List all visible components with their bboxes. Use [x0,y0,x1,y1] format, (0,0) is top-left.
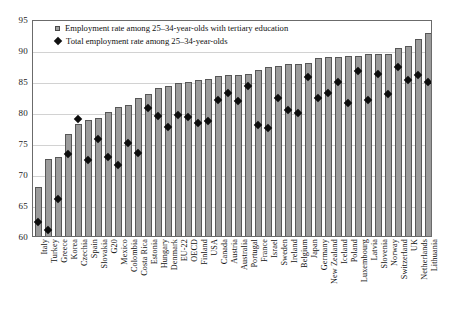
bar-group[interactable] [425,21,432,236]
bar[interactable] [185,82,192,236]
y-tick-label: 95 [19,15,28,25]
x-tick-label: Ireland [290,239,299,263]
bar-group[interactable] [235,21,242,236]
bar-group[interactable] [135,21,142,236]
bar-group[interactable] [305,21,312,236]
bar-group[interactable] [335,21,342,236]
bar-group[interactable] [125,21,132,236]
bar[interactable] [275,66,282,237]
bar-group[interactable] [115,21,122,236]
bar[interactable] [165,86,172,236]
bar-group[interactable] [65,21,72,236]
bar-group[interactable] [285,21,292,236]
x-tick-label: Costa Rica [140,239,149,276]
bar[interactable] [175,83,182,236]
bar-group[interactable] [195,21,202,236]
bar[interactable] [325,57,332,236]
bar-group[interactable] [325,21,332,236]
x-tick-label: Slovenia [380,239,389,268]
bar-group[interactable] [205,21,212,236]
bar[interactable] [115,107,122,236]
bar[interactable] [305,63,312,236]
bar-group[interactable] [175,21,182,236]
bar[interactable] [125,105,132,236]
bar[interactable] [45,159,52,236]
bar[interactable] [205,79,212,236]
y-tick-label: 85 [19,77,28,87]
bar-group[interactable] [225,21,232,236]
x-tick-label: Luxembourg [360,239,369,282]
bar[interactable] [35,187,42,236]
bar-group[interactable] [415,21,422,236]
x-tick-label: Germany [320,239,329,270]
bar-group[interactable] [265,21,272,236]
bar[interactable] [255,70,262,236]
bar[interactable] [425,33,432,236]
bar[interactable] [75,124,82,236]
bar-group[interactable] [355,21,362,236]
bar-group[interactable] [255,21,262,236]
bar[interactable] [365,54,372,236]
bar[interactable] [155,88,162,236]
bar[interactable] [345,56,352,236]
bar-group[interactable] [365,21,372,236]
bar[interactable] [415,39,422,236]
bar-group[interactable] [215,21,222,236]
bar-group[interactable] [245,21,252,236]
bar-group[interactable] [35,21,42,236]
y-tick-label: 75 [19,139,28,149]
x-tick-label: Netherlands [420,239,429,280]
x-tick-label: Poland [350,239,359,262]
bar-group[interactable] [45,21,52,236]
x-tick-label: Turkey [50,239,59,263]
bar-group[interactable] [395,21,402,236]
bar-group[interactable] [95,21,102,236]
bar-group[interactable] [385,21,392,236]
bar-group[interactable] [185,21,192,236]
bar[interactable] [295,64,302,236]
bar-group[interactable] [165,21,172,236]
legend-item-tertiary-education: Employment rate among 25–34-year-olds wi… [55,23,288,35]
bar-group[interactable] [275,21,282,236]
bar[interactable] [265,67,272,236]
bar-group[interactable] [375,21,382,236]
x-tick-label: Canada [220,239,229,264]
bar-group[interactable] [155,21,162,236]
employment-rate-bar-chart: 6065707580859095 % Employment rate among… [0,0,450,322]
legend-label: Employment rate among 25–34-year-olds wi… [65,23,288,35]
bar[interactable] [245,74,252,236]
bar[interactable] [395,48,402,236]
bar[interactable] [355,56,362,236]
bar-group[interactable] [295,21,302,236]
bar-group[interactable] [105,21,112,236]
x-tick-label: UK [410,239,419,251]
diamond-marker[interactable] [74,115,82,123]
x-tick-label: Finland [200,239,209,265]
x-tick-label: Japan [310,239,319,258]
x-tick-label: Latvia [370,239,379,261]
legend-label: Total employment rate among 25–34-year-o… [66,36,228,48]
data-series-layer [33,21,431,236]
bar[interactable] [105,112,112,236]
bar-group[interactable] [85,21,92,236]
bar[interactable] [315,58,322,236]
x-tick-label: Greece [60,239,69,263]
bar-group[interactable] [145,21,152,236]
bar-group[interactable] [405,21,412,236]
bar-group[interactable] [345,21,352,236]
bar[interactable] [285,64,292,236]
bar[interactable] [135,98,142,236]
bar[interactable] [145,94,152,236]
chart-legend: Employment rate among 25–34-year-olds wi… [55,23,288,48]
x-tick-label: Iceland [340,239,349,264]
bar-group[interactable] [75,21,82,236]
bar[interactable] [405,46,412,236]
bar-group[interactable] [55,21,62,236]
bar[interactable] [225,75,232,236]
bar-group[interactable] [315,21,322,236]
bar[interactable] [85,120,92,236]
bar[interactable] [385,54,392,236]
bar[interactable] [195,80,202,236]
x-tick-label: Denmark [170,239,179,270]
bar[interactable] [375,54,382,236]
